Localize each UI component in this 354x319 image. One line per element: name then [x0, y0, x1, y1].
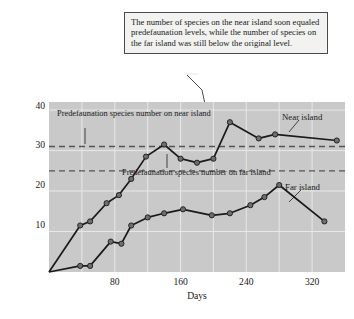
x-tick-160: 160	[161, 276, 201, 287]
data-point	[78, 263, 83, 268]
data-point	[145, 215, 150, 220]
data-point	[178, 156, 183, 161]
y-tick-20: 20	[23, 179, 45, 190]
data-point	[180, 207, 185, 212]
data-point	[88, 219, 93, 224]
series-far-island	[49, 182, 327, 272]
x-axis-ticks: 80 160 240 320	[49, 276, 345, 290]
data-point	[119, 241, 124, 246]
annotation-far-reference: Predefaunation species number on far isl…	[122, 168, 242, 178]
chart-figure: The number of species on the near island…	[0, 0, 354, 319]
callout-text: The number of species on the near island…	[131, 17, 319, 48]
data-point	[262, 195, 267, 200]
data-point	[273, 132, 278, 137]
data-point	[277, 182, 282, 187]
y-axis-ticks: 40 30 20 10	[20, 102, 45, 272]
data-point	[248, 203, 253, 208]
series-label-far-island: Far island	[285, 182, 320, 192]
data-point	[256, 136, 261, 141]
data-point	[322, 219, 327, 224]
series-near-island	[49, 120, 339, 272]
x-tick-320: 320	[292, 276, 332, 287]
annotation-near-reference: Predefaunation species number on near is…	[57, 109, 177, 119]
data-point	[162, 211, 167, 216]
data-point	[211, 156, 216, 161]
data-point	[104, 201, 109, 206]
data-series-layer	[49, 120, 339, 272]
x-axis-label: Days	[49, 290, 345, 301]
data-point	[78, 223, 83, 228]
data-point	[209, 213, 214, 218]
data-point	[129, 223, 134, 228]
data-point	[162, 142, 167, 147]
data-point	[227, 211, 232, 216]
data-point	[108, 239, 113, 244]
data-point	[334, 138, 339, 143]
x-tick-240: 240	[226, 276, 266, 287]
series-label-near-island: Near island	[282, 112, 322, 122]
series-line	[49, 185, 324, 272]
y-tick-40: 40	[23, 100, 45, 111]
data-point	[227, 120, 232, 125]
callout-box: The number of species on the near island…	[124, 12, 328, 54]
x-tick-80: 80	[95, 276, 135, 287]
data-point	[88, 263, 93, 268]
y-tick-10: 10	[23, 219, 45, 230]
data-point	[194, 160, 199, 165]
data-point	[116, 193, 121, 198]
data-point	[143, 154, 148, 159]
y-tick-30: 30	[23, 139, 45, 150]
